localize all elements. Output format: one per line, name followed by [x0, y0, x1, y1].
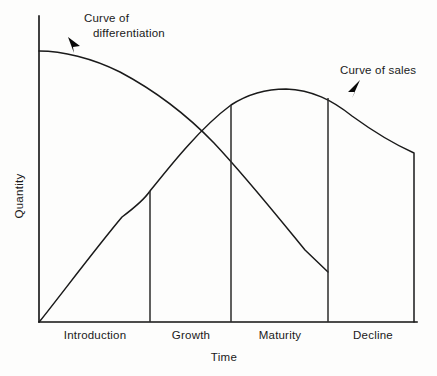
- curve-of-differentiation: [39, 51, 328, 272]
- x-axis-title: Time: [211, 351, 237, 363]
- chart-figure: Curve of differentiation Curve of sales …: [0, 0, 437, 376]
- arrow-to-differentiation-curve: [68, 37, 80, 53]
- stage-label-introduction: Introduction: [64, 329, 127, 341]
- label-curve-of-differentiation-line2: differentiation: [93, 27, 165, 39]
- curve-of-sales: [40, 89, 414, 322]
- label-curve-of-sales: Curve of sales: [340, 64, 416, 76]
- stage-label-growth: Growth: [172, 329, 210, 341]
- product-life-cycle-chart: Curve of differentiation Curve of sales …: [0, 0, 437, 376]
- label-curve-of-differentiation-line1: Curve of: [84, 12, 130, 24]
- stage-label-decline: Decline: [353, 329, 393, 341]
- stage-label-maturity: Maturity: [259, 329, 302, 341]
- y-axis-title: Quantity: [13, 173, 25, 218]
- arrow-to-sales-curve: [348, 80, 360, 98]
